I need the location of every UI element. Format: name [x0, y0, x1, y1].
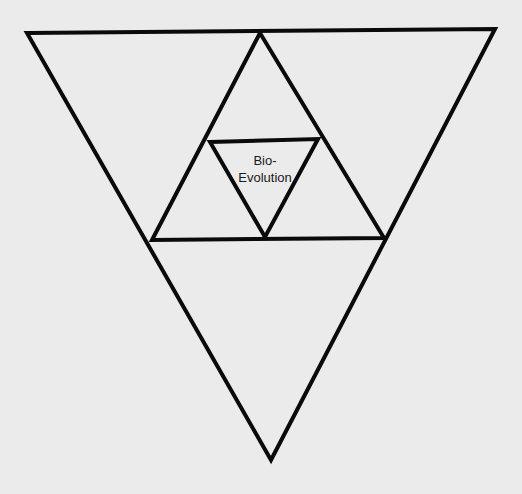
center-label-line1: Bio-	[210, 152, 320, 169]
outer-triangle	[27, 29, 495, 460]
middle-triangle	[152, 33, 384, 240]
center-label-line2: Evolution	[210, 169, 320, 186]
nested-triangles-diagram	[0, 0, 522, 494]
center-label: Bio- Evolution	[210, 152, 320, 186]
